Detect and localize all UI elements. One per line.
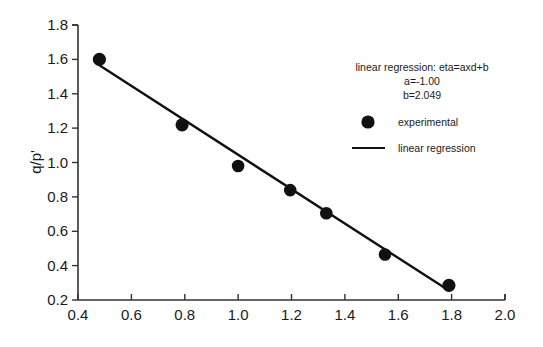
x-tick-label: 1.2 bbox=[281, 306, 302, 323]
y-tick-label: 0.6 bbox=[47, 222, 68, 239]
regression-annotation: linear regression: eta=axd+b a=-1.00 b=2… bbox=[355, 61, 488, 101]
y-tick-label: 1.0 bbox=[47, 154, 68, 171]
x-axis-tick-labels: 0.4 0.6 0.8 1.0 1.2 1.4 1.6 1.8 2.0 bbox=[68, 306, 516, 323]
chart-legend: experimental linear regression bbox=[352, 115, 476, 154]
annotation-intercept: b=2.049 bbox=[403, 89, 441, 101]
regression-line bbox=[99, 65, 449, 290]
y-tick-label: 1.6 bbox=[47, 50, 68, 67]
x-tick-label: 0.4 bbox=[68, 306, 89, 323]
data-point bbox=[284, 184, 297, 197]
data-point bbox=[232, 160, 245, 173]
x-tick-label: 1.0 bbox=[228, 306, 249, 323]
y-axis-title: q/p' bbox=[27, 150, 44, 174]
y-axis-ticks bbox=[72, 25, 78, 300]
y-tick-label: 1.4 bbox=[47, 85, 68, 102]
annotation-equation: linear regression: eta=axd+b bbox=[355, 61, 488, 73]
legend-label-regression: linear regression bbox=[398, 142, 476, 154]
data-point bbox=[176, 118, 189, 131]
x-tick-label: 0.6 bbox=[121, 306, 142, 323]
data-point bbox=[320, 207, 333, 220]
data-point bbox=[379, 248, 392, 261]
y-tick-label: 0.4 bbox=[47, 257, 68, 274]
data-point bbox=[93, 53, 106, 66]
x-axis-ticks bbox=[78, 294, 505, 300]
x-tick-label: 1.6 bbox=[388, 306, 409, 323]
x-tick-label: 1.8 bbox=[441, 306, 462, 323]
y-tick-label: 1.8 bbox=[47, 16, 68, 33]
legend-marker-experimental-icon bbox=[361, 115, 374, 128]
x-tick-label: 2.0 bbox=[495, 306, 516, 323]
y-tick-label: 0.8 bbox=[47, 188, 68, 205]
data-points bbox=[93, 53, 456, 292]
y-tick-label: 0.2 bbox=[47, 291, 68, 308]
annotation-slope: a=-1.00 bbox=[404, 75, 440, 87]
data-point bbox=[442, 279, 455, 292]
legend-label-experimental: experimental bbox=[398, 116, 458, 128]
y-tick-label: 1.2 bbox=[47, 119, 68, 136]
x-tick-label: 0.8 bbox=[174, 306, 195, 323]
y-axis-tick-labels: 0.2 0.4 0.6 0.8 1.0 1.2 1.4 1.6 1.8 bbox=[47, 16, 68, 308]
chart-figure: 0.2 0.4 0.6 0.8 1.0 1.2 1.4 1.6 1.8 0.4 … bbox=[0, 0, 543, 347]
scatter-plot: 0.2 0.4 0.6 0.8 1.0 1.2 1.4 1.6 1.8 0.4 … bbox=[0, 0, 543, 347]
x-tick-label: 1.4 bbox=[334, 306, 355, 323]
